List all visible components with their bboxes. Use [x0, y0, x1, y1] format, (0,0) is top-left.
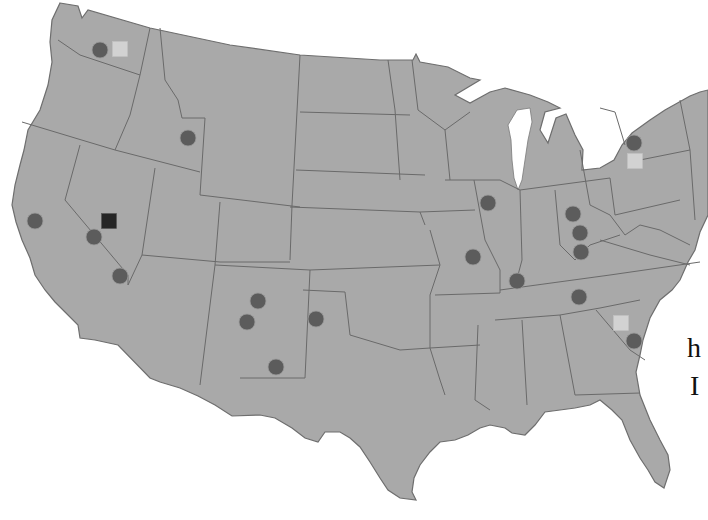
- circle-marker: [112, 268, 128, 284]
- circle-marker: [573, 244, 589, 260]
- circle-marker: [250, 293, 266, 309]
- circle-marker: [509, 273, 525, 289]
- edge-text-line-2: I: [690, 372, 699, 400]
- dark-square-marker: [102, 214, 117, 229]
- circle-marker: [239, 314, 255, 330]
- circle-marker: [268, 359, 284, 375]
- circle-marker: [626, 135, 642, 151]
- edge-text-line-1: h: [687, 334, 701, 362]
- circle-marker: [571, 289, 587, 305]
- us-land-outline: [12, 3, 708, 500]
- circle-marker: [27, 213, 43, 229]
- circle-marker: [626, 333, 642, 349]
- circle-marker: [465, 249, 481, 265]
- light-square-marker: [628, 154, 643, 169]
- circle-marker: [180, 130, 196, 146]
- circle-marker: [92, 42, 108, 58]
- light-square-marker: [113, 42, 128, 57]
- circle-marker: [572, 225, 588, 241]
- circle-marker: [565, 206, 581, 222]
- circle-marker: [308, 311, 324, 327]
- circle-marker: [480, 195, 496, 211]
- circle-marker: [86, 229, 102, 245]
- light-square-marker: [614, 316, 629, 331]
- us-map: [0, 0, 708, 520]
